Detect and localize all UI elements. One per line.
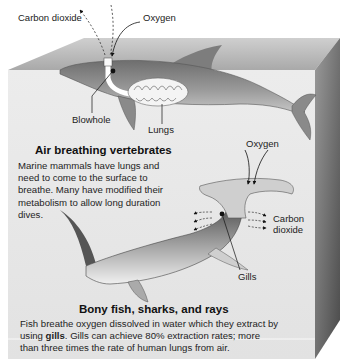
label-carbon-dioxide-shark-line1: Carbon — [273, 214, 304, 224]
label-gills: Gills — [238, 272, 256, 282]
label-oxygen-top: Oxygen — [143, 13, 176, 23]
label-carbon-dioxide-top: Carbon dioxide — [18, 13, 82, 23]
description-air-breathing: Marine mammals have lungs and need to co… — [18, 160, 178, 221]
box-side-face — [315, 38, 340, 359]
respiration-diagram: Carbon dioxide Oxygen Blowhole Lungs Air… — [0, 0, 340, 359]
heading-bony-fish-sharks-rays: Bony fish, sharks, and rays — [79, 303, 229, 315]
label-blowhole: Blowhole — [72, 115, 111, 125]
label-carbon-dioxide-shark-line2: dioxide — [273, 225, 303, 235]
description-term-gills: gills — [46, 330, 65, 341]
heading-air-breathing-vertebrates: Air breathing vertebrates — [35, 144, 172, 156]
label-oxygen-shark: Oxygen — [246, 139, 279, 149]
description-gill-breathing: Fish breathe oxygen dissolved in water w… — [20, 318, 280, 355]
label-lungs: Lungs — [148, 125, 174, 135]
